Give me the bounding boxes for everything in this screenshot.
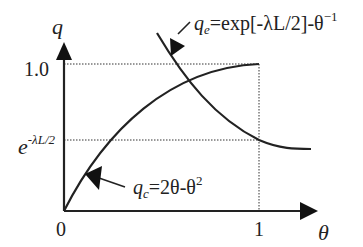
origin-label: 0	[56, 218, 66, 240]
y-axis-label: q	[52, 14, 63, 39]
x-tick-one-label: 1	[254, 218, 264, 240]
q-c-rhs: =2θ-θ	[149, 176, 196, 198]
q-e-symbol: q	[194, 12, 204, 35]
diagram-canvas: q θ 0 1 1.0 e-λL/2 qe=exp[-λL/2]-θ−1 qc=…	[0, 0, 363, 247]
y-tick-exp-base: e	[18, 134, 28, 159]
q-c-symbol: q	[133, 176, 143, 199]
q-c-pointer-line	[99, 178, 125, 187]
y-tick-exp-label: e-λL/2	[18, 132, 56, 159]
y-tick-exp-power: -λL/2	[28, 132, 56, 147]
q-e-pointer-line	[178, 22, 190, 34]
q-e-rhs: =exp[-λL/2]-θ	[210, 12, 324, 35]
q-c-sup: 2	[196, 173, 203, 188]
x-axis-label: θ	[318, 220, 329, 245]
q-e-formula-label: qe=exp[-λL/2]-θ−1	[194, 9, 337, 37]
q-e-pointer-arrow-icon	[170, 38, 185, 56]
y-axis-arrow-icon	[56, 42, 72, 60]
y-tick-one-label: 1.0	[24, 58, 49, 80]
q-c-formula-label: qc=2θ-θ2	[133, 173, 202, 201]
curve-q-e	[157, 33, 311, 149]
x-axis-arrow-icon	[300, 202, 318, 220]
q-e-sup: −1	[324, 9, 338, 24]
